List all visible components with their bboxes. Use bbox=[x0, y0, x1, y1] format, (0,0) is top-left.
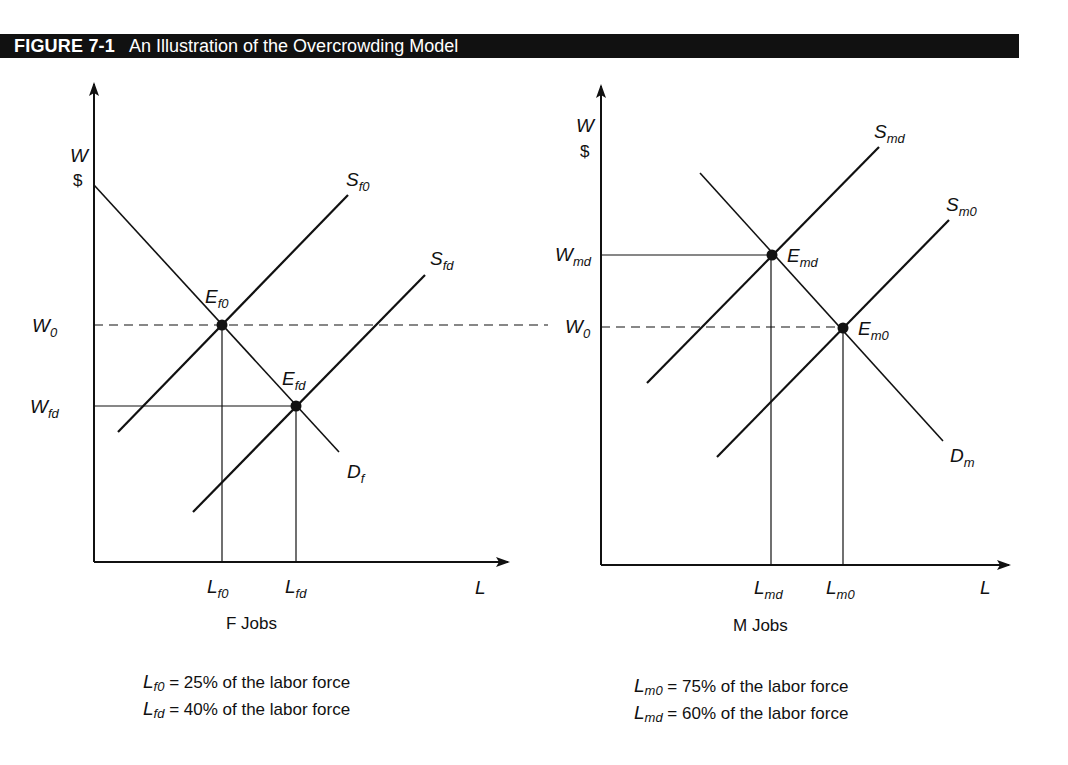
demand-curve-dm bbox=[700, 173, 943, 441]
right-panel-m-jobs: W $ L W0 Wmd Lmd Lm0 Smd Sm0 Dm Emd Em0 … bbox=[555, 86, 1009, 635]
equilibrium-point-em0 bbox=[838, 323, 849, 334]
left-x-axis-label: L bbox=[475, 577, 486, 598]
right-w0-label: W0 bbox=[565, 316, 591, 341]
right-panel-caption: M Jobs bbox=[733, 616, 788, 635]
right-notes: Lm0 = 75% of the labor force Lmd = 60% o… bbox=[634, 675, 848, 729]
supply-curve-smd bbox=[647, 147, 879, 383]
wfd-label: Wfd bbox=[30, 396, 60, 421]
right-x-axis-label: L bbox=[980, 577, 991, 598]
wmd-label: Wmd bbox=[555, 244, 592, 269]
left-w0-label: W0 bbox=[32, 315, 58, 340]
sm0-label: Sm0 bbox=[946, 194, 978, 219]
left-y-axis-unit: $ bbox=[73, 171, 83, 190]
lfd-label: Lfd bbox=[285, 576, 307, 601]
df-label: Df bbox=[347, 461, 366, 486]
equilibrium-point-efd bbox=[291, 401, 302, 412]
left-panel-f-jobs: W $ L W0 Wfd Lf0 Lfd Sf0 Sfd Df Ef0 Efd … bbox=[30, 84, 548, 633]
lf0-label: Lf0 bbox=[207, 576, 229, 601]
sfd-label: Sfd bbox=[430, 248, 454, 273]
demand-curve-df bbox=[94, 185, 339, 452]
right-y-axis-label: W bbox=[576, 115, 596, 136]
note-lfd: Lfd = 40% of the labor force bbox=[143, 698, 350, 725]
overcrowding-diagram: W $ L W0 Wfd Lf0 Lfd Sf0 Sfd Df Ef0 Efd … bbox=[0, 0, 1068, 765]
dm-label: Dm bbox=[950, 445, 975, 470]
sf0-label: Sf0 bbox=[346, 169, 370, 194]
left-panel-caption: F Jobs bbox=[226, 614, 277, 633]
smd-label: Smd bbox=[874, 121, 906, 146]
emd-label: Emd bbox=[787, 245, 819, 270]
note-lm0: Lm0 = 75% of the labor force bbox=[634, 675, 848, 702]
left-y-axis-label: W bbox=[70, 145, 90, 166]
ef0-label: Ef0 bbox=[205, 286, 229, 311]
lm0-label: Lm0 bbox=[826, 577, 855, 602]
lmd-label: Lmd bbox=[754, 577, 783, 602]
equilibrium-point-emd bbox=[767, 250, 778, 261]
efd-label: Efd bbox=[282, 368, 306, 393]
left-notes: Lf0 = 25% of the labor force Lfd = 40% o… bbox=[143, 671, 350, 725]
supply-curve-sf0 bbox=[118, 195, 348, 432]
note-lmd: Lmd = 60% of the labor force bbox=[634, 702, 848, 729]
right-y-axis-unit: $ bbox=[580, 142, 590, 161]
note-lf0: Lf0 = 25% of the labor force bbox=[143, 671, 350, 698]
em0-label: Em0 bbox=[858, 318, 890, 343]
equilibrium-point-ef0 bbox=[217, 320, 228, 331]
